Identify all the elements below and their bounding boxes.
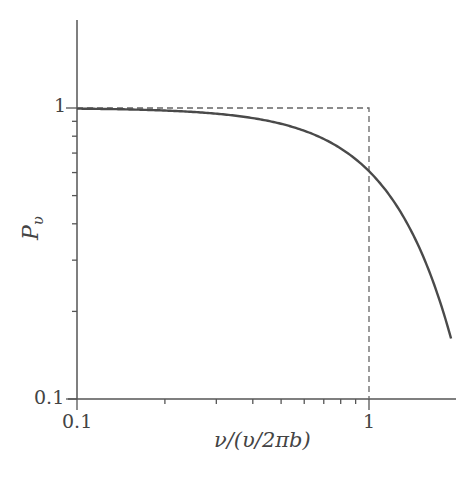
x-tick-label-1: 1 [363,410,375,432]
p-curve [77,109,451,339]
plot-area [0,0,475,479]
chart-figure: 1 0.1 0.1 1 ν/(υ/2πb) Pυ [0,0,475,479]
y-axis-label-sub: υ [29,216,47,225]
y-axis-label: Pυ [18,190,48,240]
cutoff-dashed-line [77,108,369,399]
y-axis-label-main: P [18,225,43,240]
y-tick-label-1: 1 [54,94,66,116]
x-ticks [77,399,369,410]
y-ticks [66,108,77,399]
x-tick-label-0.1: 0.1 [62,410,92,432]
x-axis-label: ν/(υ/2πb) [214,428,311,452]
y-tick-label-0.1: 0.1 [34,386,64,408]
